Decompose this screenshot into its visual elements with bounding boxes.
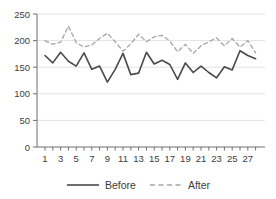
y-tick-label-0: 0: [25, 142, 30, 153]
legend-label-after: After: [188, 180, 210, 191]
before-line: [45, 51, 256, 82]
x-tick-label-15: 15: [149, 153, 160, 164]
x-tick-label-23: 23: [211, 153, 222, 164]
x-tick-label-17: 17: [165, 153, 176, 164]
legend: Before After: [0, 177, 276, 193]
x-tick-label-5: 5: [74, 153, 79, 164]
legend-item-after: After: [149, 180, 210, 191]
chart-container: 05010015020025013579111315171921232527 B…: [0, 0, 276, 199]
before-line-swatch: [66, 181, 100, 189]
x-tick-label-9: 9: [105, 153, 110, 164]
y-tick-label-50: 50: [19, 115, 30, 126]
legend-item-before: Before: [66, 180, 136, 191]
y-tick-label-150: 150: [14, 62, 30, 73]
x-tick-label-19: 19: [180, 153, 191, 164]
x-tick-label-11: 11: [118, 153, 128, 164]
x-tick-label-1: 1: [42, 153, 47, 164]
x-tick-label-7: 7: [89, 153, 94, 164]
x-tick-label-25: 25: [227, 153, 238, 164]
x-tick-label-27: 27: [243, 153, 254, 164]
y-tick-label-100: 100: [14, 88, 30, 99]
x-tick-label-3: 3: [58, 153, 63, 164]
legend-label-before: Before: [105, 180, 136, 191]
after-line-swatch: [149, 181, 183, 189]
y-tick-label-200: 200: [14, 35, 30, 46]
y-tick-label-250: 250: [14, 9, 30, 20]
x-tick-label-21: 21: [196, 153, 207, 164]
line-chart: 05010015020025013579111315171921232527: [0, 0, 276, 199]
after-line: [45, 26, 256, 53]
x-tick-label-13: 13: [133, 153, 144, 164]
